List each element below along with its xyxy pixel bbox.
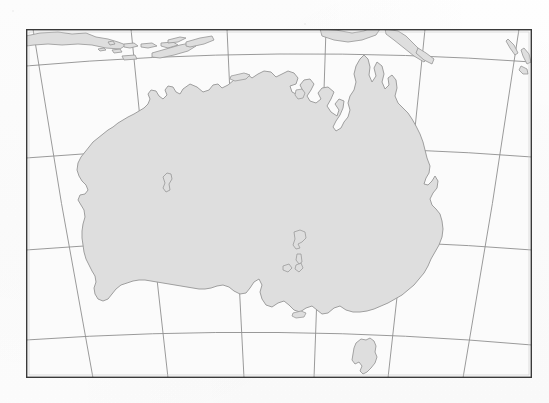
groote-eylandt [295, 89, 305, 99]
australia-outline-map [0, 0, 549, 403]
island-small [112, 49, 122, 53]
island-small [98, 48, 106, 51]
island-small [122, 55, 137, 60]
map-page [0, 0, 549, 403]
